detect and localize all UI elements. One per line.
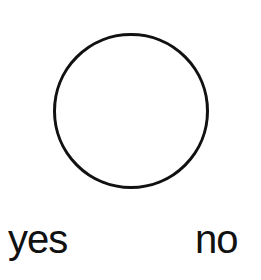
option-no[interactable]: no	[195, 219, 238, 259]
circle-shape	[53, 33, 209, 189]
option-yes[interactable]: yes	[8, 219, 67, 259]
